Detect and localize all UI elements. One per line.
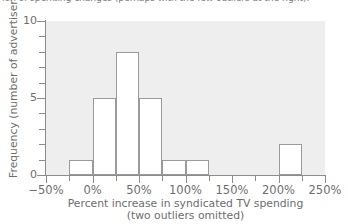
x-axis-major-tick bbox=[93, 176, 94, 183]
y-axis-tick-label: 0 bbox=[30, 169, 37, 180]
x-axis-minor-tick bbox=[69, 176, 70, 181]
x-axis-tick-label: 250% bbox=[309, 184, 342, 196]
histogram-bars bbox=[46, 21, 325, 175]
x-axis-minor-tick bbox=[209, 176, 210, 181]
y-axis-major-tick bbox=[37, 98, 45, 99]
x-axis-tick-label: 100% bbox=[169, 184, 202, 196]
x-axis-major-tick bbox=[46, 176, 47, 183]
y-axis-title: Frequency (number of advertisers) bbox=[8, 18, 20, 178]
y-axis-minor-tick bbox=[39, 144, 45, 145]
figure-page: ion of spending changes (perhaps with th… bbox=[0, 0, 348, 224]
x-axis-minor-tick bbox=[162, 176, 163, 181]
y-axis-major-tick bbox=[37, 175, 45, 176]
x-axis-tick-label: 200% bbox=[262, 184, 295, 196]
x-axis-major-tick bbox=[139, 176, 140, 183]
histogram-bar bbox=[279, 144, 302, 175]
histogram-figure: 0510 −50%0%50%100%150%200%250% Percent i… bbox=[0, 0, 348, 224]
x-axis-tick-label: 150% bbox=[216, 184, 249, 196]
y-axis-tick-label: 10 bbox=[23, 15, 37, 26]
y-axis-tick-label: 5 bbox=[30, 92, 37, 103]
x-axis-major-tick bbox=[232, 176, 233, 183]
x-axis-major-tick bbox=[325, 176, 326, 183]
histogram-bar bbox=[93, 98, 116, 175]
histogram-bar bbox=[162, 160, 185, 175]
x-axis-subtitle: (two outliers omitted) bbox=[46, 210, 325, 222]
x-axis-minor-tick bbox=[255, 176, 256, 181]
x-axis-tick-label: 50% bbox=[126, 184, 152, 196]
y-axis-minor-tick bbox=[39, 36, 45, 37]
y-axis-minor-tick bbox=[39, 52, 45, 53]
x-axis-tick-label: −50% bbox=[28, 184, 63, 196]
histogram-bar bbox=[116, 52, 139, 175]
x-axis-minor-tick bbox=[302, 176, 303, 181]
x-axis-tick-label: 0% bbox=[83, 184, 101, 196]
y-axis-minor-tick bbox=[39, 113, 45, 114]
histogram-bar bbox=[186, 160, 209, 175]
x-axis-major-tick bbox=[279, 176, 280, 183]
x-axis-major-tick bbox=[186, 176, 187, 183]
histogram-bar bbox=[69, 160, 92, 175]
histogram-bar bbox=[139, 98, 162, 175]
y-axis-minor-tick bbox=[39, 83, 45, 84]
x-axis-minor-tick bbox=[116, 176, 117, 181]
y-axis-major-tick bbox=[37, 21, 45, 22]
y-axis-minor-tick bbox=[39, 160, 45, 161]
y-axis-minor-tick bbox=[39, 67, 45, 68]
y-axis-minor-tick bbox=[39, 129, 45, 130]
